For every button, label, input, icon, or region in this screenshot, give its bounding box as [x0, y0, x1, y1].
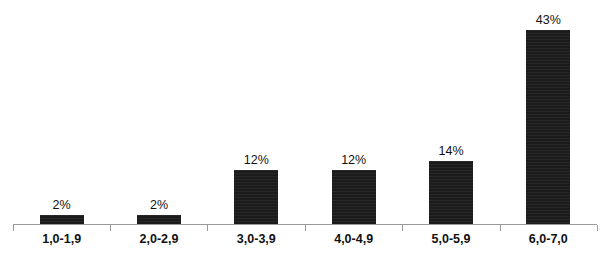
x-axis-category-label: 1,0-1,9 — [14, 232, 110, 246]
plot-area: 2% 2% 12% 12% 14% 43% 1,0-1,9 2,0-2,9 3,… — [0, 0, 610, 257]
x-axis-category-label: 4,0-4,9 — [306, 232, 402, 246]
x-axis-category-label: 5,0-5,9 — [403, 232, 499, 246]
x-axis-category-label: 3,0-3,9 — [208, 232, 304, 246]
bar[interactable] — [429, 161, 473, 224]
bar[interactable] — [526, 30, 570, 224]
bar[interactable] — [137, 215, 181, 224]
x-axis-tick — [597, 225, 598, 231]
x-axis-tick — [402, 225, 403, 231]
bar-value-label: 2% — [129, 198, 189, 212]
x-axis-tick — [500, 225, 501, 231]
bar-value-label: 2% — [32, 198, 92, 212]
x-axis-tick — [13, 225, 14, 231]
bar[interactable] — [40, 215, 84, 224]
x-axis-category-label: 6,0-7,0 — [500, 232, 596, 246]
x-axis-tick — [110, 225, 111, 231]
bar-value-label: 12% — [324, 153, 384, 167]
bar[interactable] — [332, 170, 376, 224]
bar-value-label: 12% — [226, 153, 286, 167]
bar-value-label: 14% — [421, 144, 481, 158]
bar[interactable] — [234, 170, 278, 224]
x-axis-category-label: 2,0-2,9 — [111, 232, 207, 246]
x-axis-tick — [207, 225, 208, 231]
x-axis-tick — [305, 225, 306, 231]
bar-value-label: 43% — [518, 13, 578, 27]
bar-chart: 2% 2% 12% 12% 14% 43% 1,0-1,9 2,0-2,9 3,… — [0, 0, 610, 257]
